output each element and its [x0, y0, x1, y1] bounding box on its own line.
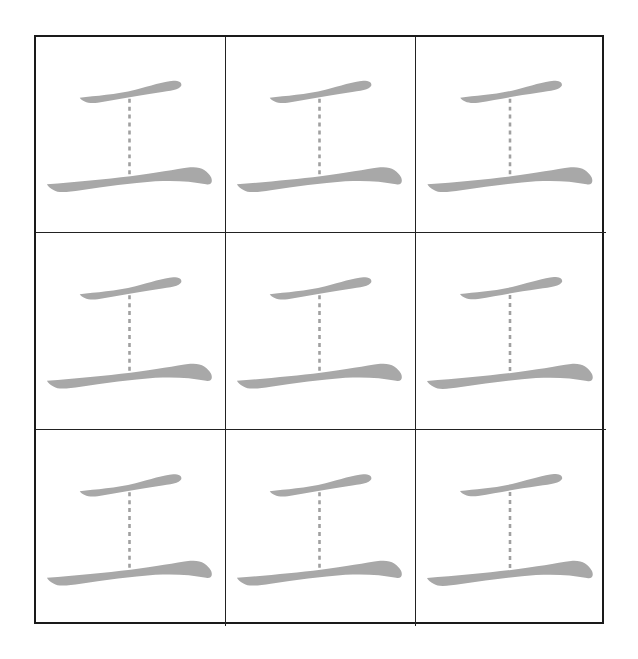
practice-cell-r3-c2: 工 [226, 430, 416, 626]
practice-cell-r1-c3: 工 [416, 37, 606, 233]
practice-cell-r1-c2: 工 [226, 37, 416, 233]
character-strokes-icon [226, 37, 415, 232]
character-strokes-icon [416, 430, 606, 626]
practice-cell-r3-c1: 工 [36, 430, 226, 626]
practice-cell-r2-c1: 工 [36, 233, 226, 430]
character-strokes-icon [416, 233, 606, 429]
practice-cell-r2-c3: 工 [416, 233, 606, 430]
practice-cell-r2-c2: 工 [226, 233, 416, 430]
practice-grid: 工 工 工 工 [34, 35, 604, 624]
practice-cell-r1-c1: 工 [36, 37, 226, 233]
practice-cell-r3-c3: 工 [416, 430, 606, 626]
character-strokes-icon [416, 37, 606, 232]
character-strokes-icon [226, 430, 415, 626]
character-strokes-icon [226, 233, 415, 429]
character-strokes-icon [36, 37, 225, 232]
character-strokes-icon [36, 233, 225, 429]
character-strokes-icon [36, 430, 225, 626]
